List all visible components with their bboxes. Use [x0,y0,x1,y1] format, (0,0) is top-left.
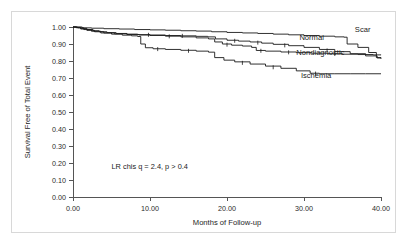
y-tick-label: 1.00 [52,23,66,32]
y-tick-label: 0.00 [52,193,66,202]
y-tick-label: 0.90 [52,40,66,49]
x-tick-label: 40.00 [372,204,390,213]
curve-label-scar: Scar [355,25,371,34]
y-tick-label: 0.60 [52,91,66,100]
x-tick-label: 30.00 [295,204,313,213]
curve-labels-group: ScarNormalNondiagnosticIschemia [296,25,371,80]
survival-chart-figure: 0.000.100.200.300.400.500.600.700.800.90… [0,0,408,245]
y-tick-label: 0.50 [52,108,66,117]
y-tick-label: 0.10 [52,176,66,185]
x-tick-label: 20.00 [218,204,236,213]
curve-label-ischemia: Ischemia [301,71,332,80]
y-tick-label: 0.70 [52,74,66,83]
y-tick-label: 0.40 [52,125,66,134]
curve-label-nondiagnostic: Nondiagnostic [296,48,344,57]
curve-label-normal: Normal [299,33,324,42]
annotation-group: LR chis q = 2.4, p > 0.4 [112,162,188,171]
y-tick-label: 0.20 [52,159,66,168]
x-axis-title: Months of Follow-up [193,218,261,227]
y-axis-title: Survival Free of Total Event [23,65,32,159]
y-tick-label: 0.30 [52,142,66,151]
x-tick-label: 10.00 [141,204,159,213]
kaplan-meier-plot: 0.000.100.200.300.400.500.600.700.800.90… [0,0,408,245]
y-tick-label: 0.80 [52,57,66,66]
statistics-annotation: LR chis q = 2.4, p > 0.4 [112,162,188,171]
x-tick-label: 0.00 [66,204,80,213]
